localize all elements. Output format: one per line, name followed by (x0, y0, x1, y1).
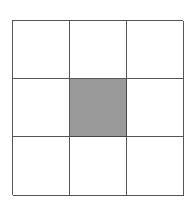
grid-cell-r1-c1-shaded (70, 79, 127, 137)
grid-cell-r0-c2 (127, 21, 184, 79)
three-by-three-grid (12, 20, 183, 195)
grid-cell-r1-c0 (13, 79, 70, 137)
grid-cell-r0-c0 (13, 21, 70, 79)
grid-cell-r2-c1 (70, 137, 127, 196)
grid-cell-r1-c2 (127, 79, 184, 137)
grid-cell-r0-c1 (70, 21, 127, 79)
grid-cell-r2-c2 (127, 137, 184, 196)
grid-cell-r2-c0 (13, 137, 70, 196)
